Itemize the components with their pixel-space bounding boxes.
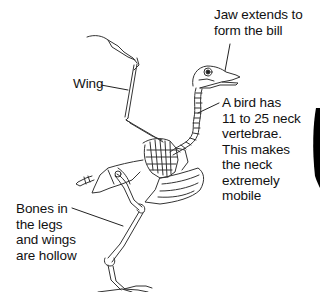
bird-skeleton-diagram: Jaw extends to form the bill Wing A bird… [0,0,320,292]
skull [193,66,240,88]
label-jaw: Jaw extends to form the bill [214,7,303,38]
label-hollow-bones: Bones in the legs and wings are hollow [16,201,77,263]
label-wing: Wing [73,76,103,92]
edge-shape [313,108,320,188]
neck-vertebrae [170,88,202,155]
sternum-keel [145,168,204,204]
label-neck-vertebrae: A bird has 11 to 25 neck vertebrae. This… [222,95,301,204]
tail-vertebrae [76,176,94,186]
